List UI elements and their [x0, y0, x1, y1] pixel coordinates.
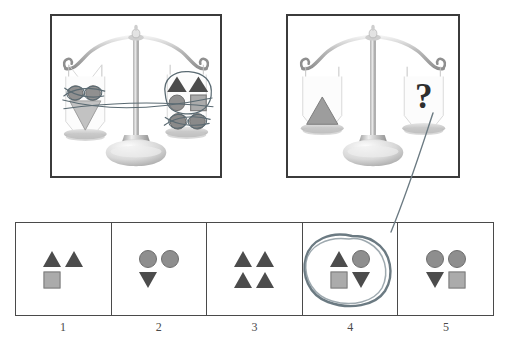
shape-triangle-down — [425, 270, 444, 289]
option-4[interactable] — [303, 223, 399, 315]
option-number-2: 2 — [111, 320, 207, 344]
left-pan-group — [301, 67, 344, 135]
shape-triangle-up — [256, 249, 275, 268]
left-pan-group — [64, 65, 107, 141]
option-number-labels: 1 2 3 4 5 — [15, 320, 494, 344]
shape-triangle-up — [256, 270, 275, 289]
shape-triangle-up — [43, 249, 62, 268]
option-1[interactable] — [16, 223, 112, 315]
option-5-shapes — [425, 249, 466, 289]
shape-square — [330, 270, 349, 289]
shape-triangle-down — [352, 270, 371, 289]
option-3-shapes — [234, 249, 275, 289]
shape-triangle-up — [234, 249, 253, 268]
balance-panel-question: ? — [286, 14, 460, 178]
option-3[interactable] — [207, 223, 303, 315]
question-mark-label: ? — [415, 77, 433, 116]
option-2[interactable] — [112, 223, 208, 315]
balance-scale-given-illustration — [52, 16, 220, 176]
shape-circle — [160, 249, 179, 268]
option-5[interactable] — [398, 223, 493, 315]
balance-scale-question-illustration: ? — [288, 16, 458, 176]
shape-square — [43, 270, 62, 289]
shape-square — [447, 270, 466, 289]
shape-circle — [352, 249, 371, 268]
option-number-4: 4 — [302, 320, 398, 344]
right-pan-group: ? — [402, 67, 445, 135]
shape-circle — [425, 249, 444, 268]
option-2-shapes — [138, 249, 179, 289]
answer-options-row — [15, 222, 494, 316]
shape-triangle-up — [234, 270, 253, 289]
shape-triangle-up — [65, 249, 84, 268]
puzzle-stage: ? — [0, 0, 508, 350]
balance-panel-given — [50, 14, 222, 178]
shape-circle — [447, 249, 466, 268]
option-number-5: 5 — [398, 320, 494, 344]
shape-triangle-down — [138, 270, 157, 289]
shape-circle — [138, 249, 157, 268]
option-1-shapes — [43, 249, 84, 289]
shape-triangle-up — [330, 249, 349, 268]
option-number-1: 1 — [15, 320, 111, 344]
option-4-shapes — [330, 249, 371, 289]
option-number-3: 3 — [207, 320, 303, 344]
